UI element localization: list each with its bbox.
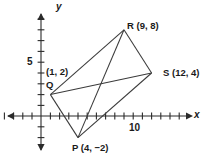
coordinate-plane-svg [0, 0, 207, 157]
y-axis-label: y [56, 2, 62, 12]
vertex-label-p: P (4, −2) [72, 143, 109, 153]
x-axis-arrow-left [7, 112, 14, 119]
vertex-label-r: R (9, 8) [127, 21, 159, 31]
y-axis-group [37, 13, 44, 151]
x-axis-arrow-right [186, 112, 193, 119]
y-axis-tick-label-5: 5 [27, 57, 33, 67]
x-axis-label: x [194, 110, 200, 120]
x-axis-tick-label-10: 10 [129, 123, 140, 133]
coordinate-plane-figure: y x 5 10 R (9, 8) S (12, 4) (1, 2) Q P (… [0, 0, 207, 157]
x-axis-group [4, 112, 193, 119]
edge-r-s [124, 30, 152, 73]
edge-s-p [78, 73, 152, 138]
vertex-label-s: S (12, 4) [163, 68, 199, 78]
vertex-label-q-name: Q [46, 80, 53, 90]
edge-q-r [50, 30, 124, 95]
y-axis-arrow-down [37, 144, 44, 151]
vertex-label-q-coords: (1, 2) [46, 67, 68, 77]
